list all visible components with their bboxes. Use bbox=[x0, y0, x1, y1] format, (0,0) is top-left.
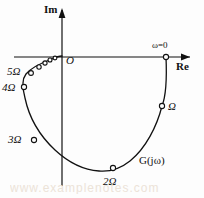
marker-extra-3 bbox=[48, 58, 52, 62]
imaginary-axis bbox=[59, 8, 66, 186]
marker-extra-2 bbox=[43, 61, 47, 65]
tick-label-5-omega: 5Ω bbox=[7, 66, 20, 77]
omega-zero-label: ω=0 bbox=[152, 41, 168, 50]
watermark-text: www.examplenotes.com bbox=[10, 181, 196, 194]
imaginary-axis-label: Im bbox=[44, 4, 57, 15]
real-axis-label: Re bbox=[176, 61, 189, 72]
tick-label-1-omega: Ω bbox=[168, 101, 176, 112]
nyquist-plot-figure: Im Re O ω=0 G(jω) 5Ω 4Ω 3Ω 2Ω Ω www.exam… bbox=[0, 0, 204, 198]
curve-label: G(jω) bbox=[139, 155, 165, 166]
marker-5-omega bbox=[29, 71, 34, 76]
marker-extra-4 bbox=[53, 56, 57, 60]
tick-label-3-omega: 3Ω bbox=[8, 134, 21, 145]
marker-3-omega bbox=[31, 137, 36, 142]
marker-2-omega bbox=[110, 165, 115, 170]
plot-canvas bbox=[0, 0, 204, 198]
tick-label-4-omega: 4Ω bbox=[2, 82, 15, 93]
marker-4-omega bbox=[21, 84, 26, 89]
marker-1-omega bbox=[159, 103, 164, 108]
marker-omega-0 bbox=[163, 54, 168, 59]
origin-label: O bbox=[66, 55, 74, 66]
marker-extra-1 bbox=[37, 65, 41, 69]
